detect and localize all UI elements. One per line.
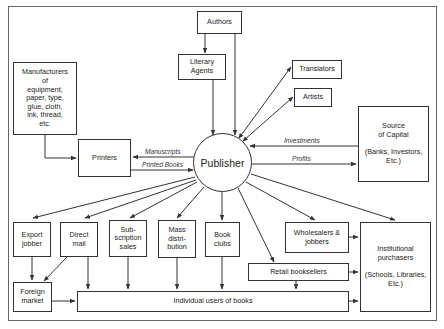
node-source-of-capital: Source of Capital (Banks, Investors, Etc… — [358, 106, 429, 182]
node-artists: Artists — [294, 88, 332, 107]
node-manufacturers: Manufacturers of equipment, paper, type,… — [13, 62, 77, 135]
node-institutional-purchasers: Institutional purchasers (Schools, Libra… — [360, 222, 431, 312]
edge-label-profits: Profits — [292, 155, 311, 162]
node-retail-booksellers: Retail booksellers — [248, 263, 349, 281]
node-foreign-market: Foreign market — [13, 282, 52, 312]
node-subscription-sales: Sub- scription sales — [109, 220, 147, 257]
node-publisher: Publisher — [193, 133, 252, 192]
node-literary-agents: Literary Agents — [178, 54, 226, 80]
edge-label-manuscripts: Manuscripts — [145, 148, 181, 155]
node-translators: Translators — [292, 60, 342, 79]
edge-label-investments: Investments — [284, 137, 320, 144]
node-direct-mail: Direct mail — [60, 222, 98, 257]
node-individual-users: Individual users of books — [77, 291, 349, 312]
node-printers: Printers — [78, 139, 131, 177]
edge-label-printed-books: Printed Books — [142, 161, 183, 168]
node-wholesalers-jobbers: Wholesalers & jobbers — [285, 222, 349, 253]
publisher-label: Publisher — [201, 157, 245, 169]
node-book-clubs: Book clubs — [205, 222, 240, 257]
node-export-jobber: Export jobber — [13, 222, 51, 257]
node-mass-distribution: Mass distri- bution — [158, 220, 196, 258]
node-authors: Authors — [197, 11, 242, 34]
